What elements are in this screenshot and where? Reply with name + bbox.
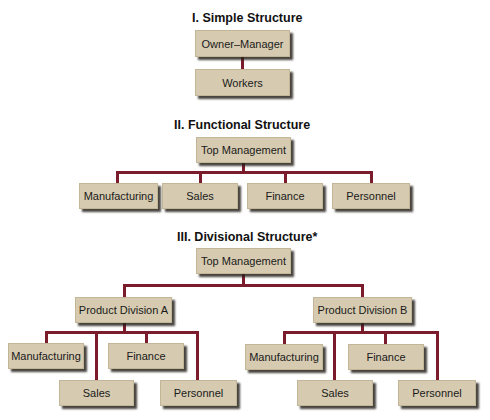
connector [370, 171, 373, 183]
functional-manufacturing-box: Manufacturing [79, 183, 158, 209]
divisional-structure-title: III. Divisional Structure* [177, 230, 317, 244]
functional-top-management-box: Top Management [196, 137, 291, 163]
functional-personnel-box: Personnel [332, 183, 410, 209]
connector [45, 331, 48, 343]
workers-box: Workers [195, 69, 290, 96]
division-a-sales-box: Sales [59, 380, 134, 406]
connector [361, 284, 364, 297]
connector [384, 331, 387, 344]
connector [95, 331, 98, 380]
division-a-finance-box: Finance [108, 343, 184, 369]
connector [241, 57, 244, 69]
connector [283, 331, 439, 334]
connector [196, 331, 199, 380]
division-b-manufacturing-box: Manufacturing [245, 344, 323, 370]
connector [116, 171, 373, 174]
functional-sales-box: Sales [162, 183, 238, 209]
connector [199, 171, 202, 183]
division-b-finance-box: Finance [348, 344, 424, 370]
product-division-b-box: Product Division B [313, 297, 412, 323]
division-a-manufacturing-box: Manufacturing [8, 343, 84, 369]
connector [333, 331, 336, 380]
owner-manager-box: Owner–Manager [195, 30, 290, 57]
functional-structure-title: II. Functional Structure [174, 118, 310, 132]
connector [116, 171, 119, 183]
divisional-top-management-box: Top Management [196, 248, 291, 274]
connector [45, 331, 199, 334]
product-division-a-box: Product Division A [75, 297, 172, 323]
division-b-sales-box: Sales [297, 380, 373, 406]
connector [123, 284, 126, 297]
connector [283, 331, 286, 344]
simple-structure-title: I. Simple Structure [192, 11, 302, 25]
division-a-personnel-box: Personnel [160, 380, 237, 406]
connector [436, 331, 439, 380]
connector [284, 171, 287, 183]
functional-finance-box: Finance [247, 183, 323, 209]
division-b-personnel-box: Personnel [398, 380, 476, 406]
connector [145, 331, 148, 343]
connector [123, 284, 363, 287]
